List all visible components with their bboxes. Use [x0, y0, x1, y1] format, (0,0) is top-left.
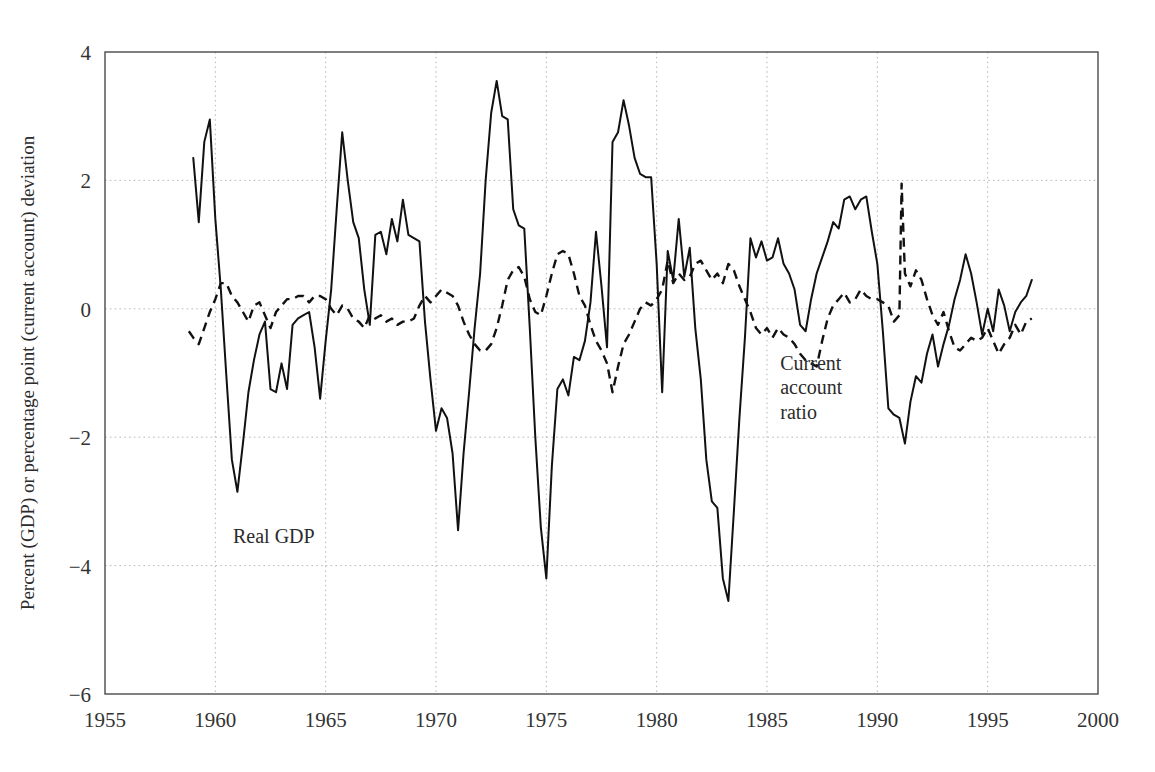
x-tick-label: 1995 [967, 708, 1009, 732]
annotation-label: Real GDP [233, 525, 315, 547]
y-tick-label: −4 [69, 555, 92, 579]
x-tick-label: 1985 [746, 708, 788, 732]
x-tick-label: 1955 [84, 708, 126, 732]
series-line-real-gdp [193, 81, 1032, 601]
y-tick-label: −2 [69, 426, 91, 450]
x-tick-label: 1970 [415, 708, 457, 732]
chart-canvas: 420−2−4−6 195519601965197019751980198519… [0, 0, 1155, 772]
chart-annotations: Real GDPCurrentaccountratio [233, 352, 843, 547]
x-tick-label: 1960 [194, 708, 236, 732]
y-tick-label: 4 [81, 41, 92, 65]
x-tick-label: 1990 [856, 708, 898, 732]
plot-frame [105, 52, 1098, 694]
y-tick-labels: 420−2−4−6 [69, 41, 92, 707]
y-tick-label: 2 [81, 169, 92, 193]
x-tick-label: 1975 [525, 708, 567, 732]
gridlines-group [105, 52, 1098, 694]
y-tick-label: −6 [69, 683, 91, 707]
data-series-group [189, 81, 1032, 601]
annotation-label: ratio [780, 401, 817, 423]
x-tick-labels: 1955196019651970197519801985199019952000 [84, 708, 1119, 732]
x-tick-label: 1965 [305, 708, 347, 732]
y-tick-label: 0 [81, 298, 92, 322]
chart-figure: 420−2−4−6 195519601965197019751980198519… [0, 0, 1155, 772]
annotation-label: account [780, 376, 843, 398]
y-axis-title: Percent (GDP) or percentage point (curre… [17, 135, 39, 610]
x-tick-label: 1980 [636, 708, 678, 732]
annotation-label: Current [780, 352, 842, 374]
x-tick-label: 2000 [1077, 708, 1119, 732]
